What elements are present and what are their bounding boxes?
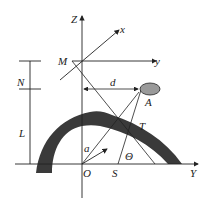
label-y: y bbox=[154, 55, 160, 67]
label-Y: Y bbox=[190, 167, 198, 179]
label-a-upper: A bbox=[144, 96, 152, 108]
label-n: N bbox=[16, 76, 25, 88]
label-x: x bbox=[119, 23, 125, 35]
geometry-diagram: Z x y M N d A L T a Θ O S Y bbox=[0, 0, 211, 203]
label-t: T bbox=[139, 120, 146, 132]
label-d: d bbox=[110, 76, 116, 88]
label-theta: Θ bbox=[125, 150, 133, 162]
label-a-lower: a bbox=[84, 142, 90, 154]
label-l: L bbox=[18, 127, 25, 139]
object-a-ellipse bbox=[140, 83, 160, 95]
label-o: O bbox=[83, 167, 91, 179]
x-axis bbox=[60, 30, 119, 80]
label-s: S bbox=[112, 167, 118, 179]
label-m: M bbox=[57, 55, 68, 67]
label-z: Z bbox=[71, 13, 78, 25]
